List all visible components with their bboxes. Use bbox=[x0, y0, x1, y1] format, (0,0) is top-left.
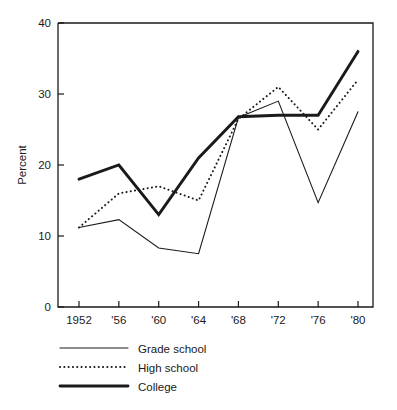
data-series-group bbox=[79, 51, 358, 253]
x-tick-label: '64 bbox=[191, 314, 207, 326]
y-tick-label: 0 bbox=[45, 301, 51, 313]
series-line-grade-school bbox=[79, 101, 358, 254]
y-axis: 010203040 bbox=[38, 17, 64, 313]
axis-frame-lines bbox=[58, 23, 373, 307]
x-tick-label: '80 bbox=[351, 314, 366, 326]
legend-label-high-school: High school bbox=[138, 362, 198, 374]
y-tick-label: 30 bbox=[38, 88, 51, 100]
chart-legend: Grade schoolHigh schoolCollege bbox=[60, 343, 206, 393]
x-tick-label: '56 bbox=[111, 314, 126, 326]
y-tick-label: 10 bbox=[38, 230, 51, 242]
x-axis: 1952'56'60'64'68'72'76'80 bbox=[66, 301, 365, 326]
x-tick-label: '76 bbox=[311, 314, 326, 326]
plot-frame bbox=[58, 23, 373, 307]
y-axis-title: Percent bbox=[16, 144, 28, 184]
x-tick-label: '68 bbox=[231, 314, 246, 326]
x-tick-label: '60 bbox=[151, 314, 166, 326]
legend-label-grade-school: Grade school bbox=[138, 343, 206, 355]
series-line-college bbox=[79, 51, 358, 214]
line-chart: 010203040 1952'56'60'64'68'72'76'80 Perc… bbox=[0, 0, 397, 410]
y-tick-label: 40 bbox=[38, 17, 51, 29]
chart-figure: 010203040 1952'56'60'64'68'72'76'80 Perc… bbox=[0, 0, 397, 410]
legend-label-college: College bbox=[138, 381, 177, 393]
x-tick-label: '72 bbox=[271, 314, 286, 326]
y-tick-label: 20 bbox=[38, 159, 51, 171]
series-line-high-school bbox=[79, 80, 358, 228]
x-tick-label: 1952 bbox=[66, 314, 92, 326]
